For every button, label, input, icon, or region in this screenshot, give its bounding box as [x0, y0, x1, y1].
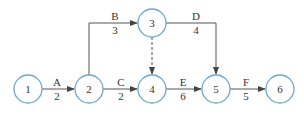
activity-duration-B: 3	[112, 24, 118, 36]
activity-name-E: E	[180, 76, 187, 88]
node-3: 3	[138, 9, 166, 37]
activity-duration-D: 4	[193, 24, 199, 36]
activity-name-F: F	[243, 76, 249, 88]
activity-duration-E: 6	[180, 90, 186, 102]
node-2: 2	[75, 75, 103, 103]
node-label-6: 6	[277, 83, 283, 95]
node-1: 1	[14, 75, 42, 103]
activity-name-D: D	[192, 10, 200, 22]
activity-arrow-D	[166, 23, 216, 74]
node-label-1: 1	[25, 83, 31, 95]
node-4: 4	[138, 75, 166, 103]
activity-duration-C: 2	[118, 90, 124, 102]
activity-duration-A: 2	[54, 90, 60, 102]
node-5: 5	[202, 75, 230, 103]
node-label-2: 2	[86, 83, 92, 95]
node-label-5: 5	[213, 83, 219, 95]
activity-name-B: B	[111, 10, 118, 22]
activity-name-A: A	[53, 76, 61, 88]
node-label-4: 4	[149, 83, 155, 95]
network-diagram: A 2 B 3 C 2 D 4 E 6 F 5 1 2 3 4 5 6	[0, 0, 304, 115]
activity-name-C: C	[117, 76, 124, 88]
node-label-3: 3	[149, 17, 155, 29]
node-6: 6	[266, 75, 294, 103]
activity-duration-F: 5	[243, 90, 249, 102]
